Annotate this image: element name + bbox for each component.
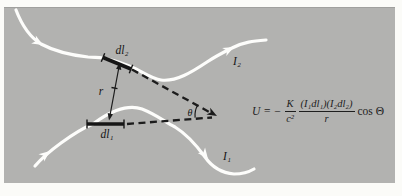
formula-fraction-elements-over-r: (I₁dl₁)(I₂dl₂) r bbox=[299, 98, 355, 124]
textbook-figure: dl₂ dl₁ r θ I₂ I₁ U = − K c² (I₁dl₁)(I₂d… bbox=[0, 0, 402, 196]
formula-lhs: U = − bbox=[252, 105, 282, 117]
formula-r-denominator: r bbox=[325, 112, 329, 125]
current-i1-label: I₁ bbox=[222, 150, 231, 162]
wire-2-path bbox=[16, 10, 266, 80]
formula: U = − K c² (I₁dl₁)(I₂dl₂) r cos Θ bbox=[252, 98, 384, 124]
formula-fraction-k-over-c2: K c² bbox=[285, 98, 296, 124]
formula-c2-denominator: c² bbox=[286, 112, 294, 125]
theta-angle-arc bbox=[195, 106, 197, 118]
dashed-line-dl2-extension bbox=[132, 70, 212, 114]
current-i2-label: I₂ bbox=[232, 55, 241, 67]
dl1-label: dl₁ bbox=[101, 128, 114, 140]
formula-cos-theta: cos Θ bbox=[358, 105, 385, 117]
r-line-mid-tick bbox=[112, 88, 118, 89]
formula-k-numerator: K bbox=[285, 98, 296, 112]
dl2-label: dl₂ bbox=[116, 44, 129, 56]
theta-label: θ bbox=[188, 107, 193, 118]
r-label: r bbox=[99, 85, 104, 97]
wire-1-path bbox=[35, 107, 254, 174]
formula-elements-numerator: (I₁dl₁)(I₂dl₂) bbox=[299, 98, 355, 112]
